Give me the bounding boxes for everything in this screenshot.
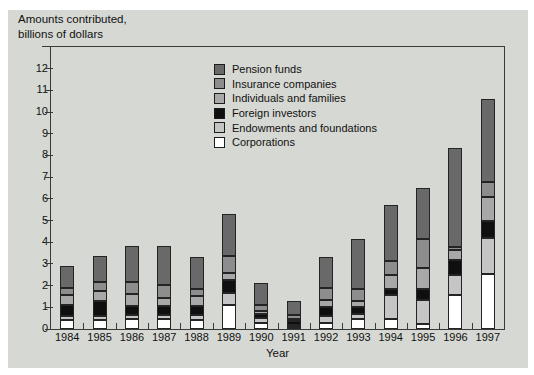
bar-segment: [448, 148, 462, 247]
bar-segment: [351, 289, 365, 301]
bar-segment: [384, 275, 398, 289]
bar-segment: [254, 311, 268, 314]
bar-segment: [125, 282, 139, 294]
x-minor-tick: [245, 323, 246, 329]
x-minor-tick: [278, 323, 279, 329]
bar-segment: [384, 261, 398, 275]
y-tick-mark: [45, 155, 53, 156]
chart-title-line1: Amounts contributed,: [18, 12, 127, 27]
bar-segment: [222, 293, 236, 305]
bar-segment: [93, 301, 107, 316]
bar-segment: [448, 247, 462, 250]
chart-panel: Amounts contributed, billions of dollars…: [8, 10, 528, 368]
legend-swatch: [214, 93, 225, 104]
bar-segment: [287, 319, 301, 321]
bar-segment: [190, 289, 204, 297]
bar-segment: [416, 289, 430, 300]
bar-segment: [448, 295, 462, 329]
y-tick-mark: [45, 68, 53, 69]
y-tick-mark: [45, 307, 53, 308]
bar-segment: [448, 260, 462, 275]
x-minor-tick: [213, 323, 214, 329]
bar-segment: [60, 305, 74, 316]
bar-1994: [384, 205, 398, 329]
bar-segment: [351, 301, 365, 308]
bar-segment: [157, 246, 171, 285]
bar-segment: [319, 307, 333, 316]
bar-segment: [416, 188, 430, 239]
bar-segment: [416, 239, 430, 268]
x-minor-tick: [472, 323, 473, 329]
bar-1991: [287, 301, 301, 329]
bar-segment: [384, 319, 398, 329]
y-tick-mark: [45, 198, 53, 199]
bar-segment: [93, 291, 107, 301]
bar-segment: [254, 318, 268, 322]
bar-segment: [416, 268, 430, 289]
plot-area: 0123456789101112 19841985198619871988198…: [50, 46, 505, 330]
bar-segment: [125, 306, 139, 315]
bar-segment: [287, 327, 301, 329]
bar-segment: [351, 239, 365, 289]
bar-1995: [416, 188, 430, 329]
legend-item: Insurance companies: [214, 77, 377, 92]
bar-segment: [190, 320, 204, 329]
bar-segment: [125, 246, 139, 283]
bar-segment: [125, 319, 139, 329]
legend-swatch: [214, 137, 225, 148]
bar-segment: [319, 323, 333, 330]
y-tick-mark: [45, 263, 53, 264]
legend-item: Pension funds: [214, 62, 377, 77]
bar-1992: [319, 257, 333, 329]
legend-label: Corporations: [232, 136, 295, 148]
bar-segment: [319, 257, 333, 287]
bar-segment: [190, 306, 204, 315]
bar-segment: [416, 324, 430, 329]
bar-segment: [481, 221, 495, 238]
bar-segment: [351, 319, 365, 329]
bar-segment: [222, 273, 236, 281]
x-minor-tick: [439, 323, 440, 329]
legend-swatch: [214, 108, 225, 119]
y-tick-mark: [45, 285, 53, 286]
bar-1996: [448, 148, 462, 329]
bar-segment: [416, 300, 430, 324]
bar-1985: [93, 256, 107, 329]
bar-segment: [384, 295, 398, 319]
bar-1984: [60, 266, 74, 329]
bar-segment: [254, 323, 268, 330]
bar-1989: [222, 214, 236, 329]
bar-segment: [93, 256, 107, 282]
x-minor-tick: [148, 323, 149, 329]
bar-segment: [222, 305, 236, 329]
bar-segment: [481, 99, 495, 181]
bar-segment: [448, 250, 462, 260]
bar-segment: [157, 315, 171, 319]
bar-segment: [125, 315, 139, 319]
x-minor-tick: [116, 323, 117, 329]
bar-segment: [319, 316, 333, 323]
legend-label: Pension funds: [232, 63, 302, 75]
bar-segment: [60, 295, 74, 305]
bar-segment: [190, 257, 204, 288]
bar-segment: [287, 325, 301, 327]
bar-segment: [319, 288, 333, 300]
legend-swatch: [214, 64, 225, 75]
legend-label: Endowments and foundations: [232, 122, 377, 134]
bar-segment: [190, 315, 204, 320]
bar-segment: [93, 282, 107, 291]
bar-1986: [125, 246, 139, 330]
bar-segment: [222, 280, 236, 293]
bar-segment: [287, 301, 301, 315]
bar-segment: [481, 238, 495, 274]
y-tick-mark: [45, 329, 53, 330]
bar-segment: [60, 316, 74, 320]
bar-segment: [60, 288, 74, 296]
bar-segment: [384, 289, 398, 296]
bar-segment: [93, 320, 107, 329]
legend-item: Foreign investors: [214, 106, 377, 121]
bar-segment: [222, 214, 236, 256]
bar-segment: [319, 300, 333, 308]
chart-title: Amounts contributed, billions of dollars: [18, 12, 127, 42]
bar-segment: [481, 197, 495, 221]
